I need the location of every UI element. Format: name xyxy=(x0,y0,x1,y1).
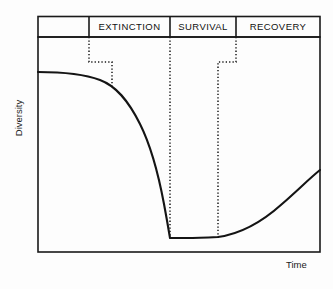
plot-area-outline xyxy=(38,37,320,252)
diversity-through-extinction-figure: EXTINCTION SURVIVAL RECOVERY Diversity T… xyxy=(0,0,333,289)
phase-label-survival: SURVIVAL xyxy=(178,21,228,32)
phase-label-extinction: EXTINCTION xyxy=(98,21,160,32)
diversity-curve-group xyxy=(38,72,320,238)
chart-canvas: EXTINCTION SURVIVAL RECOVERY Diversity T… xyxy=(0,0,333,289)
phase-label-recovery: RECOVERY xyxy=(250,21,307,32)
y-axis-label: Diversity xyxy=(13,100,24,137)
plot-frame xyxy=(38,37,320,252)
survival-end-connector xyxy=(218,37,236,238)
x-axis-label: Time xyxy=(286,259,307,270)
phase-connectors xyxy=(89,37,236,238)
phase-header-band: EXTINCTION SURVIVAL RECOVERY xyxy=(38,17,320,38)
diversity-curve xyxy=(38,72,320,238)
